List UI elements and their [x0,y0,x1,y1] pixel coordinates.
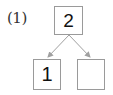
arrow-right-icon [69,35,90,57]
part-right-answer-box[interactable] [77,59,105,90]
whole-number-box: 2 [54,6,83,35]
arrow-left-icon [48,35,69,57]
part-left-box: 1 [33,59,61,90]
